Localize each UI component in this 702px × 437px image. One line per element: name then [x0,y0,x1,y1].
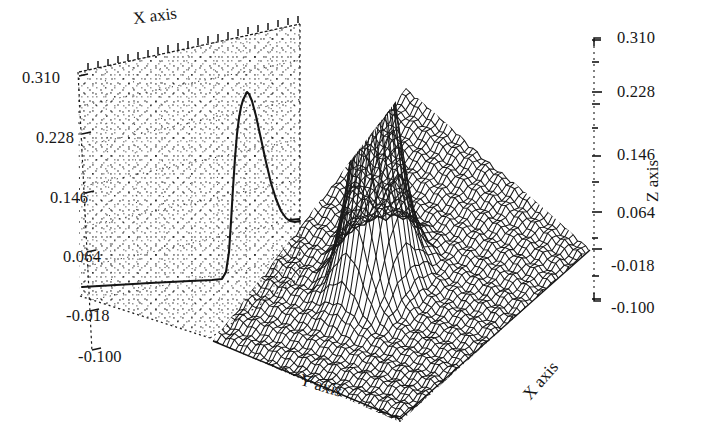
right-tick-label-3: 0.064 [617,203,655,223]
back-wall-panel [78,16,301,352]
left-tick-label-2: 0.146 [50,188,88,208]
z-axis-right-label: Z axis [643,160,663,202]
right-z-axis [592,38,602,301]
right-tick-label-4: -0.018 [611,256,655,276]
left-tick-label-0: 0.310 [22,68,60,88]
plot-canvas [0,0,702,437]
left-tick-label-5: -0.100 [78,347,122,367]
left-tick-label-1: 0.228 [36,128,74,148]
surface-plot-figure: 0.310 0.228 0.146 0.064 -0.018 -0.100 0.… [0,0,702,437]
right-tick-label-1: 0.228 [617,82,655,102]
right-tick-label-0: 0.310 [617,28,655,48]
backwall-profile-tail [288,219,300,220]
left-tick-label-4: -0.018 [66,306,110,326]
left-tick-label-3: 0.064 [63,247,101,267]
right-tick-label-5: -0.100 [611,298,655,318]
right-axis-tick-marks [592,40,602,299]
